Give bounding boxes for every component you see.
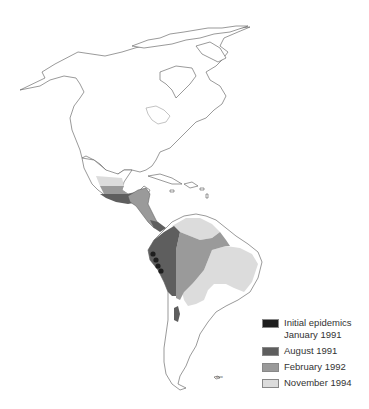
initial-epidemic-site	[158, 268, 163, 273]
legend-label: November 1994	[284, 377, 352, 389]
legend-swatch-nov-1994	[262, 379, 279, 388]
initial-epidemic-site	[153, 257, 158, 262]
legend-item-feb-1992: February 1992	[262, 361, 369, 373]
legend-swatch-initial	[262, 319, 279, 328]
caribbean-islands	[170, 188, 208, 198]
cuba	[148, 174, 182, 184]
legend-label: August 1991	[284, 345, 337, 357]
legend-label: Initial epidemics January 1991	[284, 317, 352, 341]
legend-swatch-aug-1991	[262, 347, 279, 356]
initial-epidemic-site	[150, 251, 155, 256]
initial-epidemic-site	[155, 263, 160, 268]
hispaniola	[184, 182, 198, 188]
map-legend: Initial epidemics January 1991 August 19…	[262, 317, 369, 393]
aug-1991-zone	[148, 226, 180, 296]
legend-label: February 1992	[284, 361, 346, 373]
legend-item-initial: Initial epidemics January 1991	[262, 317, 369, 341]
mexico-feb-1992-zone	[100, 186, 128, 194]
legend-swatch-feb-1992	[262, 363, 279, 372]
legend-item-nov-1994: November 1994	[262, 377, 369, 389]
map-scale-mark: ooo	[216, 374, 223, 379]
legend-item-aug-1991: August 1991	[262, 345, 369, 357]
